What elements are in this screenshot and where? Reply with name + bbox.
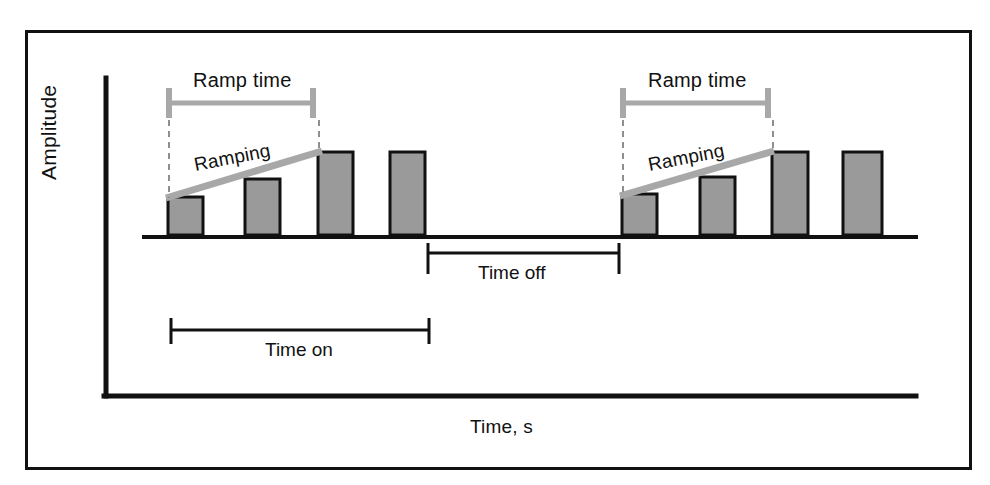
ramp-time-bracket-right [622,88,773,196]
pulse-bar [168,197,203,235]
diagram-canvas [0,0,990,485]
pulse-bar [772,152,808,235]
pulse-bar [245,179,280,235]
pulse-bar [318,152,353,235]
x-axis-label: Time, s [470,417,533,436]
time-on-label: Time on [265,340,333,359]
time-off-label: Time off [478,263,546,282]
pulse-bar [390,152,425,235]
y-axis-label: Amplitude [38,40,59,180]
ramp-time-label-right: Ramp time [648,70,747,90]
pulse-bar [622,194,657,235]
pulse-bar [843,152,882,235]
figure-root: Amplitude Time, s Ramp time Ramp time Ra… [0,0,990,485]
ramp-time-label-left: Ramp time [193,70,292,90]
pulse-bar [700,177,735,235]
